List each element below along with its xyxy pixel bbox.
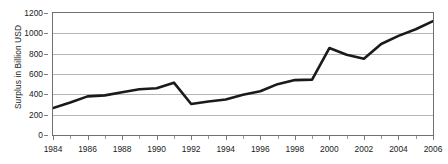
y-tick-mark xyxy=(44,33,48,34)
y-tick-label: 0 xyxy=(0,130,43,140)
x-tick-mark xyxy=(295,136,296,140)
x-tick-label: 2004 xyxy=(389,144,408,154)
y-tick-label: 800 xyxy=(0,49,43,59)
y-tick-mark xyxy=(44,135,48,136)
y-tick-label: 1200 xyxy=(0,8,43,18)
y-tick-label: 600 xyxy=(0,69,43,79)
y-tick-label: 200 xyxy=(0,110,43,120)
x-tick-mark xyxy=(53,136,54,140)
series-surplus xyxy=(53,13,433,135)
x-tick-mark-minor xyxy=(416,136,417,139)
x-tick-label: 2000 xyxy=(320,144,339,154)
x-tick-mark-minor xyxy=(312,136,313,139)
x-tick-mark xyxy=(398,136,399,140)
y-axis-tick-labels: 020040060080010001200 xyxy=(0,0,48,164)
x-tick-label: 1996 xyxy=(251,144,270,154)
x-axis-tick-labels: 1984198619881990199219941996199820002002… xyxy=(52,136,434,164)
x-tick-mark xyxy=(191,136,192,140)
x-tick-mark xyxy=(88,136,89,140)
y-tick-label: 400 xyxy=(0,89,43,99)
x-tick-mark-minor xyxy=(243,136,244,139)
y-tick-mark xyxy=(44,74,48,75)
x-tick-mark-minor xyxy=(278,136,279,139)
x-tick-mark-minor xyxy=(139,136,140,139)
x-tick-mark xyxy=(122,136,123,140)
x-tick-label: 1986 xyxy=(78,144,97,154)
x-tick-mark xyxy=(260,136,261,140)
x-tick-mark xyxy=(329,136,330,140)
x-tick-label: 1992 xyxy=(182,144,201,154)
y-tick-mark xyxy=(44,94,48,95)
x-tick-mark-minor xyxy=(105,136,106,139)
x-tick-mark xyxy=(364,136,365,140)
y-tick-mark xyxy=(44,115,48,116)
line-chart: Surplus in Billion USD 02004006008001000… xyxy=(0,0,448,164)
y-tick-mark xyxy=(44,54,48,55)
x-tick-label: 1998 xyxy=(285,144,304,154)
y-tick-label: 1000 xyxy=(0,28,43,38)
x-tick-label: 2006 xyxy=(424,144,443,154)
x-tick-label: 1994 xyxy=(216,144,235,154)
x-tick-mark-minor xyxy=(347,136,348,139)
x-tick-mark xyxy=(157,136,158,140)
x-tick-mark xyxy=(226,136,227,140)
x-tick-mark xyxy=(433,136,434,140)
x-tick-mark-minor xyxy=(208,136,209,139)
x-tick-label: 2002 xyxy=(355,144,374,154)
x-tick-label: 1984 xyxy=(44,144,63,154)
x-tick-label: 1988 xyxy=(113,144,132,154)
x-tick-mark-minor xyxy=(381,136,382,139)
plot-area xyxy=(52,12,434,136)
x-tick-mark-minor xyxy=(174,136,175,139)
x-tick-mark-minor xyxy=(70,136,71,139)
y-tick-mark xyxy=(44,13,48,14)
x-tick-label: 1990 xyxy=(147,144,166,154)
